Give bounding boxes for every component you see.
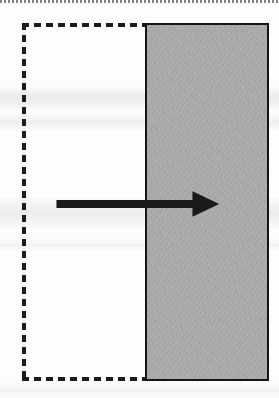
- scan-band-artifact: [0, 381, 279, 398]
- dashed-edge-left: [22, 23, 26, 381]
- displaced-region-solid-rect: [145, 23, 269, 381]
- scan-page-edge-artifact: [0, 0, 279, 3]
- paper-grain-texture: [147, 25, 267, 379]
- figure-canvas: Displacement of a rectangular region A d…: [0, 0, 279, 398]
